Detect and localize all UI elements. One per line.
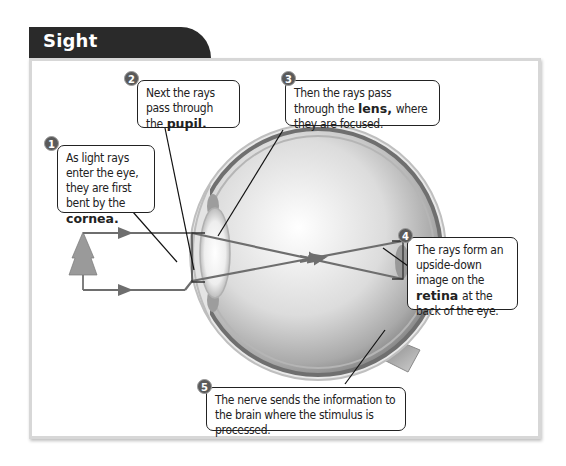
- step-badge-3: 3: [281, 71, 296, 86]
- callout-nerve: The nerve sends the information to the b…: [206, 387, 406, 431]
- callout-cornea: As light rays enter the eye, they are fi…: [57, 145, 155, 213]
- callout-term-retina: retina: [416, 288, 458, 303]
- callout-term-pupil: pupil.: [167, 116, 207, 131]
- callout-text: As light rays enter the eye, they are fi…: [66, 151, 138, 210]
- callout-term-cornea: cornea.: [66, 211, 119, 226]
- lens: [200, 208, 230, 298]
- leader-cornea: [133, 212, 177, 262]
- step-badge-4: 4: [398, 228, 413, 243]
- step-badge-5: 5: [197, 379, 212, 394]
- callout-lens: Then the rays pass through the lens, whe…: [285, 80, 440, 126]
- callout-term-lens: lens,: [358, 101, 392, 116]
- callout-pupil: Next the rays pass through the pupil.: [137, 80, 240, 128]
- step-badge-2: 2: [124, 71, 139, 86]
- step-badge-1: 1: [44, 136, 59, 151]
- callout-retina: The rays form an upside-down image on th…: [407, 237, 518, 310]
- tree-icon: [69, 232, 97, 290]
- callout-text: The nerve sends the information to the b…: [215, 393, 395, 437]
- callout-text: The rays form an upside-down image on th…: [416, 243, 503, 287]
- leader-pupil: [165, 128, 194, 270]
